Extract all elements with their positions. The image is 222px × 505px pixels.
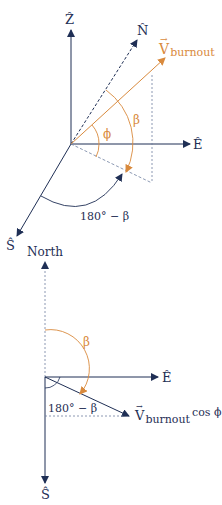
e-label-lower: Ê bbox=[162, 370, 172, 385]
projection-ground bbox=[71, 144, 152, 183]
supp-arc bbox=[41, 174, 122, 207]
lower-diagram: North Ê Ŝ β 180° − β Vburnoutcos ϕ → bbox=[27, 245, 222, 502]
s-label-lower: Ŝ bbox=[41, 486, 50, 502]
supp-angle-label-lower: 180° − β bbox=[48, 402, 97, 415]
e-label: Ê bbox=[193, 137, 203, 152]
n-label: N̂ bbox=[137, 23, 148, 38]
beta-label: β bbox=[133, 113, 140, 127]
beta-label-lower: β bbox=[83, 335, 90, 349]
upper-diagram: Ẑ N̂ Ê Ŝ Vburnout → ϕ β 180° − β bbox=[6, 12, 215, 253]
v-arrow-mark: → bbox=[160, 34, 168, 44]
phi-arc bbox=[92, 125, 99, 157]
v-cos-label: Vburnoutcos ϕ bbox=[134, 406, 222, 426]
diagram-canvas: Ẑ N̂ Ê Ŝ Vburnout → ϕ β 180° − β North Ê… bbox=[0, 0, 222, 505]
z-label: Ẑ bbox=[65, 12, 74, 27]
supp-angle-label: 180° − β bbox=[80, 210, 129, 223]
v-arrow-mark-lower: → bbox=[136, 402, 143, 411]
s-axis bbox=[17, 144, 71, 236]
phi-label: ϕ bbox=[103, 127, 111, 141]
s-label: Ŝ bbox=[6, 237, 15, 253]
north-label: North bbox=[27, 245, 63, 259]
